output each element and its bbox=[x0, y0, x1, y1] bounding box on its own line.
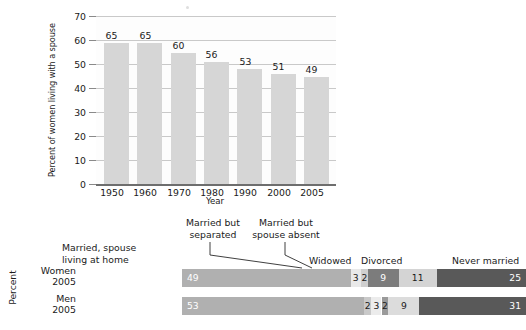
top-chart-plot-area bbox=[96, 16, 336, 184]
segment-women-absent: 2 bbox=[361, 269, 368, 287]
segment-men-divorced: 9 bbox=[388, 297, 419, 315]
y-tick-30: 30 bbox=[62, 108, 86, 117]
top-chart-x-axis-line bbox=[96, 184, 336, 186]
segment-women-divorced: 11 bbox=[399, 269, 437, 287]
bar-2000 bbox=[271, 74, 296, 184]
row-label-men-line1: Men bbox=[24, 293, 76, 304]
segment-women-never-married: 25 bbox=[437, 269, 526, 287]
gridline-70 bbox=[96, 16, 336, 17]
bar-1990 bbox=[237, 69, 262, 184]
y-tickmark-10 bbox=[89, 160, 96, 161]
y-tick-20: 20 bbox=[62, 132, 86, 141]
segment-men-never-married: 31 bbox=[419, 297, 526, 315]
segment-women-widowed: 9 bbox=[368, 269, 399, 287]
bar-2005 bbox=[304, 77, 329, 184]
y-tick-0: 0 bbox=[62, 180, 86, 189]
y-tick-40: 40 bbox=[62, 84, 86, 93]
y-tick-70: 70 bbox=[62, 12, 86, 21]
y-tick-60: 60 bbox=[62, 36, 86, 45]
y-tickmark-20 bbox=[89, 136, 96, 137]
bar-1980 bbox=[204, 62, 229, 184]
y-tickmark-50 bbox=[89, 64, 96, 65]
bottom-chart-row-labels: Women 2005 Men 2005 bbox=[24, 210, 76, 330]
top-chart-x-axis-title: Year bbox=[96, 196, 334, 206]
row-label-men-line2: 2005 bbox=[24, 304, 76, 315]
bar-1950 bbox=[104, 43, 129, 184]
row-label-women-line1: Women bbox=[24, 265, 76, 276]
y-tickmark-70 bbox=[89, 16, 96, 17]
stacked-row-men: 53 2 3 2 9 31 bbox=[182, 297, 526, 315]
bar-1960 bbox=[137, 43, 162, 184]
bar-value-2005: 49 bbox=[291, 65, 332, 74]
segment-men-widowed: 2 bbox=[382, 297, 389, 315]
y-tick-10: 10 bbox=[62, 156, 86, 165]
segment-men-separated: 2 bbox=[364, 297, 371, 315]
top-bar-chart: Percent of women living with a spouse 70… bbox=[0, 0, 526, 210]
y-tickmark-30 bbox=[89, 112, 96, 113]
stacked-row-women: 49 3 2 9 11 25 bbox=[182, 269, 526, 287]
segment-women-separated: 3 bbox=[351, 269, 361, 287]
bar-value-1960: 65 bbox=[125, 31, 166, 40]
bar-1970 bbox=[171, 53, 196, 184]
segment-men-married-home: 53 bbox=[182, 297, 364, 315]
bar-value-1970: 60 bbox=[158, 41, 199, 50]
row-label-women-line2: 2005 bbox=[24, 276, 76, 287]
segment-women-married-home: 49 bbox=[182, 269, 351, 287]
segment-men-absent: 3 bbox=[371, 297, 381, 315]
image-speck bbox=[186, 6, 189, 9]
top-chart-y-axis-title: Percent of women living with a spouse bbox=[47, 5, 57, 195]
bottom-stacked-bar-chart: Percent Married, spouse living at home M… bbox=[0, 210, 526, 330]
y-tickmark-40 bbox=[89, 88, 96, 89]
y-tick-50: 50 bbox=[62, 60, 86, 69]
top-chart-y-tick-labels: 70 60 50 40 30 20 10 0 bbox=[62, 0, 86, 210]
y-tickmark-0 bbox=[89, 184, 96, 185]
